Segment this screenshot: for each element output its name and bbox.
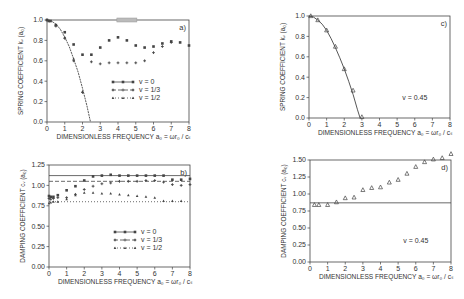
small-triangle-marker — [171, 199, 174, 202]
y-tick-label: 0.4 — [33, 78, 43, 85]
plus-marker — [171, 183, 174, 186]
analytical-curve — [47, 20, 91, 122]
x-tick-label: 7 — [169, 125, 173, 132]
x-tick-label: 2 — [82, 270, 86, 277]
triangle-marker — [317, 203, 321, 207]
y-tick-label: 1.25 — [292, 173, 306, 180]
plus-marker — [136, 180, 139, 183]
square-marker — [189, 178, 192, 181]
x-tick-label: 0 — [308, 265, 312, 272]
y-tick-label: 1.25 — [31, 161, 45, 168]
square-marker — [114, 231, 117, 234]
square-marker — [132, 81, 135, 84]
plus-marker — [134, 61, 137, 64]
square-marker — [117, 36, 120, 39]
triangle-marker — [379, 185, 383, 189]
grey-box-annotation — [117, 18, 137, 22]
y-tick-label: 0.0 — [33, 118, 43, 125]
figure: 0123456780.00.20.40.60.81.0DIMENSIONLESS… — [0, 0, 464, 299]
triangle-marker — [352, 195, 356, 199]
square-marker — [126, 39, 129, 42]
x-tick-label: 6 — [153, 270, 157, 277]
triangle-marker — [370, 186, 374, 190]
triangle-marker — [396, 178, 400, 182]
x-tick-label: 5 — [396, 265, 400, 272]
y-axis-label: SPRING COEFFICIENT kᵥ (a₀) — [17, 27, 25, 115]
y-tick-label: 0.00 — [31, 263, 45, 270]
plus-marker — [112, 89, 115, 92]
x-tick-label: 5 — [395, 121, 399, 128]
legend-label: v = 1/3 — [141, 236, 162, 243]
plus-marker — [109, 182, 112, 185]
square-marker — [81, 53, 84, 56]
triangle-marker — [312, 203, 316, 207]
x-tick-label: 8 — [448, 121, 452, 128]
triangle-marker — [387, 180, 391, 184]
plus-marker — [90, 60, 93, 63]
triangle-marker — [326, 203, 330, 207]
plus-marker — [118, 180, 121, 183]
square-marker — [101, 174, 104, 177]
small-triangle-marker — [145, 195, 148, 198]
x-tick-label: 4 — [378, 121, 382, 128]
square-marker — [118, 174, 121, 177]
legend: v = 0v = 1/3v = 1/2 — [114, 228, 163, 251]
y-axis-label: DAMPING COEFFICIENT cᵥ (a₀) — [280, 164, 288, 257]
square-marker — [108, 39, 111, 42]
square-marker — [74, 185, 77, 188]
square-marker — [145, 174, 148, 177]
x-tick-label: 3 — [361, 265, 365, 272]
y-tick-label: 1.50 — [292, 156, 306, 163]
square-marker — [63, 31, 66, 34]
plot-frame — [47, 20, 189, 122]
y-tick-label: 1.00 — [292, 190, 306, 197]
x-tick-label: 4 — [379, 265, 383, 272]
x-tick-label: 2 — [81, 125, 85, 132]
poisson-ratio-note: v = 0.45 — [402, 94, 427, 101]
x-tick-label: 6 — [414, 265, 418, 272]
y-tick-label: 0.8 — [295, 33, 305, 40]
x-tick-label: 6 — [413, 121, 417, 128]
square-marker — [134, 231, 137, 234]
x-tick-label: 5 — [134, 125, 138, 132]
y-tick-label: 1.0 — [295, 12, 305, 19]
x-tick-label: 3 — [360, 121, 364, 128]
square-marker — [92, 175, 95, 178]
square-marker — [57, 194, 60, 197]
x-tick-label: 7 — [430, 121, 434, 128]
square-marker — [136, 174, 139, 177]
x-tick-label: 2 — [343, 265, 347, 272]
plus-marker — [99, 62, 102, 65]
small-triangle-marker — [162, 199, 165, 202]
series-v-1-3 — [48, 179, 192, 201]
series-v-1-2 — [46, 19, 84, 93]
chart-panel-c: 0123456780.00.20.40.60.81.0DIMENSIONLESS… — [279, 12, 453, 137]
plus-marker — [125, 61, 128, 64]
chart-panel-a: 0123456780.00.20.40.60.81.0DIMENSIONLESS… — [17, 16, 191, 141]
x-tick-label: 4 — [118, 270, 122, 277]
triangle-marker — [440, 156, 444, 160]
small-triangle-marker — [63, 36, 66, 39]
series-v-0 — [46, 19, 191, 56]
y-tick-label: 0.2 — [295, 94, 305, 101]
small-triangle-marker — [83, 191, 86, 194]
square-marker — [127, 174, 130, 177]
square-marker — [99, 46, 102, 49]
y-tick-label: 0.50 — [292, 224, 306, 231]
square-marker — [90, 53, 93, 56]
small-triangle-marker — [136, 195, 139, 198]
square-marker — [112, 81, 115, 84]
y-tick-label: 0.6 — [33, 57, 43, 64]
triangle-marker — [414, 165, 418, 169]
plus-marker — [152, 51, 155, 54]
x-tick-label: 3 — [100, 270, 104, 277]
plus-marker — [132, 89, 135, 92]
y-tick-label: 0.8 — [33, 37, 43, 44]
square-marker — [72, 43, 75, 46]
x-tick-label: 8 — [187, 125, 191, 132]
square-marker — [122, 81, 125, 84]
plus-marker — [161, 45, 164, 48]
poisson-ratio-note: v = 0.45 — [403, 237, 428, 244]
square-marker — [49, 20, 52, 23]
x-tick-label: 1 — [63, 125, 67, 132]
